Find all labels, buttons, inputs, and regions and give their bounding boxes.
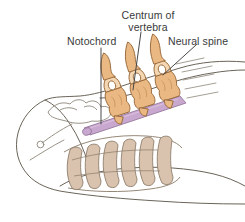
label-centrum-of-vertebra: Centrum of vertebra [113,10,183,33]
label-neural-spine: Neural spine [168,36,228,48]
figure-canvas: Centrum of vertebra Notochord Neural spi… [0,0,245,222]
snout-detail [30,124,72,160]
label-notochord: Notochord [67,36,116,48]
cranial-tissue-mass [48,100,111,124]
anatomy-illustration [0,0,245,222]
gill-arches [64,136,182,192]
